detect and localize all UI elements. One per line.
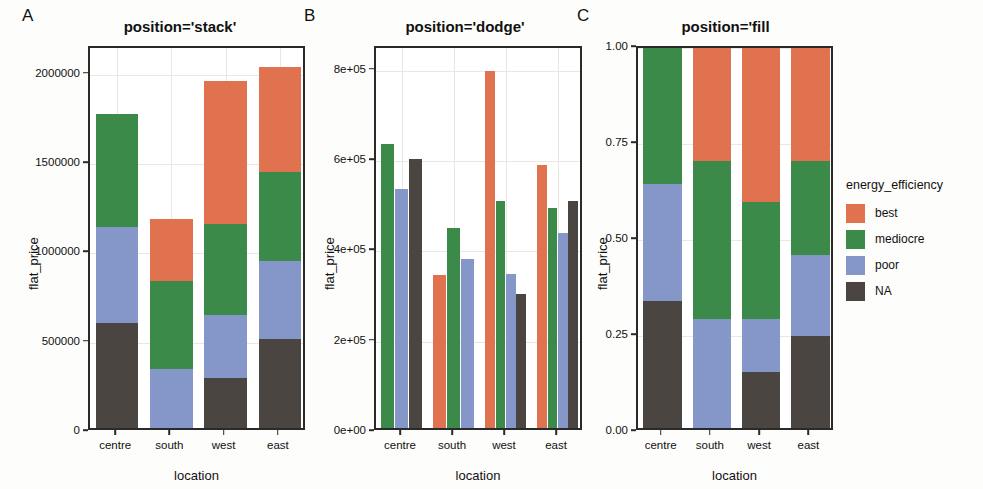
y-tick-mark: [83, 251, 88, 253]
y-tick-label: 0: [8, 424, 80, 436]
bar-segment-na: [259, 339, 301, 430]
x-tick-mark: [169, 430, 171, 435]
stacked-bar: [791, 48, 829, 428]
legend-color-swatch-poor: [846, 256, 865, 275]
x-tick-mark: [277, 430, 279, 435]
bar-poor: [506, 274, 516, 430]
y-tick-mark: [369, 158, 374, 160]
y-tick-mark: [631, 429, 636, 431]
bar-segment-na: [643, 301, 681, 430]
y-tick-label: 0.25: [556, 328, 628, 340]
legend-color-swatch-mediocre: [846, 230, 865, 249]
stacked-bar: [96, 48, 138, 428]
y-tick-label: 500000: [8, 335, 80, 347]
x-tick-mark: [503, 430, 505, 435]
y-tick-label: 0.75: [556, 136, 628, 148]
bar-segment-poor: [791, 255, 829, 336]
y-tick-label: 1000000: [8, 245, 80, 257]
y-tick-label: 0.00: [556, 424, 628, 436]
bar-segment-poor: [742, 319, 780, 373]
legend-item-poor[interactable]: poor: [846, 253, 983, 277]
bar-segment-mediocre: [150, 281, 192, 369]
panel-a-plot-area: [88, 46, 305, 430]
y-tick-mark: [631, 45, 636, 47]
legend-item-mediocre[interactable]: mediocre: [846, 227, 983, 251]
legend-title: energy_efficiency: [846, 178, 983, 192]
bar-best: [537, 165, 547, 430]
figure-ggplot-position-comparison: A position='stack' flat_price location 0…: [0, 0, 983, 489]
x-tick-label-south: south: [155, 439, 183, 451]
y-tick-mark: [369, 68, 374, 70]
legend-color-swatch-na: [846, 282, 865, 301]
y-tick-mark: [83, 161, 88, 163]
legend-item-na[interactable]: NA: [846, 279, 983, 303]
bar-segment-mediocre: [742, 202, 780, 319]
y-tick-label: 2000000: [8, 67, 80, 79]
y-tick-mark: [631, 333, 636, 335]
panel-c-letter: C: [577, 6, 589, 26]
bar-segment-best: [791, 48, 829, 161]
stacked-bar: [150, 48, 192, 428]
bar-segment-best: [204, 81, 246, 224]
bar-segment-best: [693, 48, 731, 161]
bar-segment-na: [742, 372, 780, 430]
legend-label: NA: [875, 284, 892, 298]
legend-label: best: [875, 206, 898, 220]
bar-mediocre: [381, 144, 394, 430]
bar-poor: [461, 259, 474, 430]
x-tick-label-east: east: [267, 439, 289, 451]
y-tick-label: 1.00: [556, 40, 628, 52]
panel-c-y-axis-title: flat_price: [595, 237, 610, 290]
y-tick-mark: [83, 429, 88, 431]
stacked-bar: [643, 48, 681, 428]
x-tick-label-east: east: [545, 439, 567, 451]
legend: energy_efficiency bestmediocrepoorNA: [846, 178, 983, 305]
stacked-bar: [693, 48, 731, 428]
bar-segment-na: [791, 336, 829, 430]
panel-a-stack: A position='stack' flat_price location 0…: [0, 0, 310, 489]
bar-mediocre: [447, 228, 460, 430]
bar-segment-poor: [150, 369, 192, 430]
panel-b-plot-area: [374, 46, 582, 430]
x-tick-mark: [399, 430, 401, 435]
y-tick-label: 0.50: [556, 232, 628, 244]
x-tick-label-centre: centre: [384, 439, 416, 451]
y-tick-mark: [369, 248, 374, 250]
panel-c-title: position='fill: [618, 18, 833, 35]
gridline-horizontal: [376, 161, 580, 162]
x-tick-mark: [223, 430, 225, 435]
bar-segment-poor: [96, 227, 138, 323]
legend-color-swatch-best: [846, 204, 865, 223]
y-tick-label: 6e+05: [294, 153, 366, 165]
legend-item-best[interactable]: best: [846, 201, 983, 225]
bar-segment-mediocre: [693, 161, 731, 318]
y-tick-mark: [83, 72, 88, 74]
x-tick-label-east: east: [798, 439, 820, 451]
y-tick-label: 4e+05: [294, 243, 366, 255]
x-tick-mark: [114, 430, 116, 435]
y-tick-mark: [369, 339, 374, 341]
y-tick-label: 8e+05: [294, 63, 366, 75]
bar-na: [516, 294, 526, 430]
bar-segment-poor: [643, 184, 681, 301]
bar-segment-mediocre: [791, 161, 829, 255]
panel-a-title: position='stack': [60, 18, 300, 35]
bar-segment-na: [204, 378, 246, 430]
panel-a-x-axis-title: location: [88, 468, 305, 483]
bar-segment-mediocre: [643, 48, 681, 184]
x-tick-mark: [660, 430, 662, 435]
x-tick-label-centre: centre: [645, 439, 677, 451]
x-tick-label-west: west: [747, 439, 771, 451]
stacked-bar: [259, 48, 301, 428]
bar-segment-mediocre: [204, 224, 246, 315]
x-tick-mark: [709, 430, 711, 435]
y-tick-mark: [631, 141, 636, 143]
gridline-horizontal: [376, 71, 580, 72]
legend-label: poor: [875, 258, 899, 272]
panel-b-x-axis-title: location: [374, 468, 582, 483]
panel-c-x-axis-title: location: [636, 468, 833, 483]
bar-poor: [395, 189, 408, 430]
x-tick-label-south: south: [696, 439, 724, 451]
bar-mediocre: [496, 201, 506, 430]
bar-segment-poor: [204, 315, 246, 378]
